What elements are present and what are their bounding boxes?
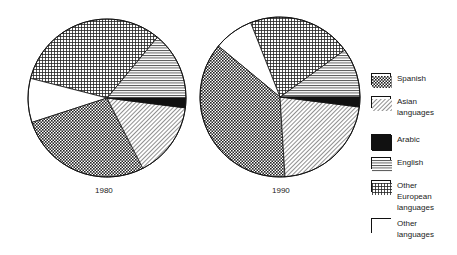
legend-label: Other languages: [397, 218, 434, 240]
legend-item: Spanish: [371, 73, 426, 85]
legend-item: Other European languages: [371, 180, 434, 213]
pie-1990: [200, 17, 360, 177]
pie-charts: [0, 0, 457, 255]
legend-label: Spanish: [397, 73, 426, 84]
pie-1980: [28, 19, 186, 177]
legend-item: Other languages: [371, 218, 434, 240]
slice-asian-languages: [280, 97, 359, 177]
legend-swatch: [371, 157, 391, 169]
legend-swatch: [371, 134, 391, 150]
legend-item: Asian languages: [371, 96, 434, 118]
legend-label: Asian languages: [397, 96, 434, 118]
legend-swatch: [371, 218, 391, 233]
legend-item: English: [371, 157, 423, 169]
legend-swatch: [371, 96, 391, 108]
pie-label-1980: 1980: [95, 186, 113, 195]
legend-swatch: [371, 180, 391, 192]
pie-label-1990: 1990: [272, 186, 290, 195]
legend-item: Arabic: [371, 134, 420, 150]
legend-label: English: [397, 157, 423, 168]
legend-label: Arabic: [397, 134, 420, 145]
legend-label: Other European languages: [397, 180, 434, 213]
legend-swatch: [371, 73, 391, 85]
